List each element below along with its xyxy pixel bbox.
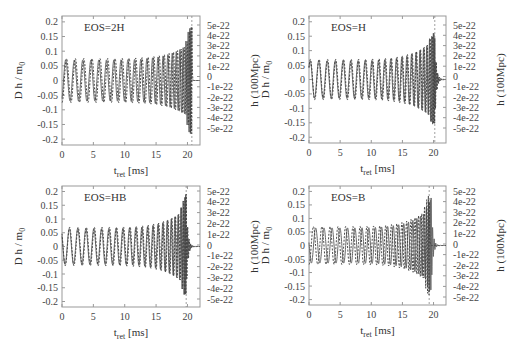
x-tick-label: 10 bbox=[120, 149, 130, 160]
y-tick-label: 0 bbox=[53, 241, 58, 252]
y2-tick-label: 4e-22 bbox=[453, 196, 476, 207]
y-tick-label: -0.1 bbox=[42, 104, 58, 115]
y-tick-label: 0.05 bbox=[288, 226, 306, 237]
y2-tick-label: 2e-22 bbox=[453, 217, 476, 228]
y-tick-label: 0.1 bbox=[293, 45, 306, 56]
y-axis-label-sub: 0 bbox=[265, 227, 274, 231]
y-tick-label: -0.1 bbox=[289, 103, 305, 114]
y2-tick-label: -1e-22 bbox=[207, 250, 233, 261]
x-tick-label: 0 bbox=[307, 147, 312, 158]
y-axis-label-sub: 0 bbox=[18, 62, 27, 66]
y-tick-label: 0 bbox=[300, 74, 305, 85]
y-tick-label: -0.05 bbox=[37, 255, 58, 266]
y2-tick-label: -5e-22 bbox=[207, 294, 233, 305]
figure: 051015200.20.150.10.050-0.05-0.1-0.15-0.… bbox=[0, 0, 515, 351]
y-tick-label: -0.2 bbox=[42, 296, 58, 307]
x-tick-label: 15 bbox=[151, 149, 161, 160]
y-tick-label: 0.15 bbox=[288, 199, 306, 210]
y-axis-label-main: D h / m bbox=[259, 230, 271, 264]
y-tick-label: 0.2 bbox=[293, 16, 306, 27]
y2-tick-label: 3e-22 bbox=[207, 207, 230, 218]
x-tick-label: 20 bbox=[182, 149, 192, 160]
x-axis-label: tret [ms] bbox=[114, 326, 148, 341]
panel-top-left: 051015200.20.150.10.050-0.05-0.1-0.15-0.… bbox=[12, 16, 261, 179]
x-axis-label: tret [ms] bbox=[360, 162, 394, 177]
y2-tick-label: -3e-22 bbox=[453, 270, 479, 281]
y-tick-label: 0.15 bbox=[41, 200, 59, 211]
y-tick-label: -0.1 bbox=[42, 269, 58, 280]
y2-axis-label: h (100Mpc) bbox=[494, 219, 507, 272]
y-tick-label: 0.1 bbox=[293, 213, 306, 224]
eos-annotation: EOS=B bbox=[331, 191, 365, 203]
y-tick-label: -0.05 bbox=[284, 254, 305, 265]
y2-tick-label: 3e-22 bbox=[453, 207, 476, 218]
y-tick-label: 0.2 bbox=[293, 186, 306, 197]
y-tick-label: 0 bbox=[300, 240, 305, 251]
x-tick-label: 5 bbox=[338, 147, 343, 158]
y-tick-label: 0.2 bbox=[46, 186, 59, 197]
y-tick-label: -0.15 bbox=[284, 281, 305, 292]
x-axis-label-unit: [ms] bbox=[125, 164, 148, 176]
y-tick-label: -0.05 bbox=[37, 90, 58, 101]
y-tick-label: -0.2 bbox=[289, 132, 305, 143]
y2-tick-label: 5e-22 bbox=[453, 186, 476, 197]
x-axis-label-unit: [ms] bbox=[372, 324, 395, 336]
y2-tick-label: -3e-22 bbox=[207, 272, 233, 283]
y-tick-label: 0.2 bbox=[46, 16, 59, 27]
y2-tick-label: 1e-22 bbox=[207, 229, 230, 240]
y2-tick-label: -2e-22 bbox=[453, 260, 479, 271]
x-axis-label-unit: [ms] bbox=[372, 162, 395, 174]
x-tick-label: 15 bbox=[397, 147, 407, 158]
y-axis-label: D h / m0 bbox=[259, 61, 274, 98]
y2-tick-label: -5e-22 bbox=[207, 123, 233, 134]
x-tick-label: 5 bbox=[91, 311, 96, 322]
y-tick-label: 0.1 bbox=[46, 214, 59, 225]
y-tick-label: -0.2 bbox=[289, 294, 305, 305]
y-axis-label: D h / m0 bbox=[12, 62, 27, 99]
eos-annotation: EOS=HB bbox=[84, 191, 126, 203]
y-tick-label: -0.15 bbox=[37, 282, 58, 293]
x-tick-label: 20 bbox=[429, 309, 439, 320]
x-axis-label: tret [ms] bbox=[114, 164, 148, 179]
y2-tick-label: 2e-22 bbox=[207, 218, 230, 229]
y2-tick-label: 5e-22 bbox=[207, 186, 230, 197]
x-axis-label-unit: [ms] bbox=[125, 326, 148, 338]
y-tick-label: 0 bbox=[53, 75, 58, 86]
y-tick-label: 0.05 bbox=[288, 60, 306, 71]
x-tick-label: 10 bbox=[366, 147, 376, 158]
y2-tick-label: -4e-22 bbox=[207, 283, 233, 294]
y2-tick-label: -2e-22 bbox=[207, 261, 233, 272]
y-axis-label-main: D h / m bbox=[12, 65, 24, 99]
y-tick-label: -0.1 bbox=[289, 267, 305, 278]
y2-tick-label: -5e-22 bbox=[453, 292, 479, 303]
x-tick-label: 20 bbox=[182, 311, 192, 322]
y-axis-label-sub: 0 bbox=[18, 228, 27, 232]
x-tick-label: 5 bbox=[91, 149, 96, 160]
x-tick-label: 5 bbox=[338, 309, 343, 320]
eos-annotation: EOS=H bbox=[331, 21, 366, 33]
x-tick-label: 15 bbox=[151, 311, 161, 322]
y-tick-label: 0.05 bbox=[41, 60, 59, 71]
y-tick-label: -0.15 bbox=[37, 119, 58, 130]
x-tick-label: 0 bbox=[307, 309, 312, 320]
y-axis-label: D h / m0 bbox=[12, 228, 27, 265]
y-tick-label: 0.05 bbox=[41, 227, 59, 238]
x-tick-label: 10 bbox=[120, 311, 130, 322]
y-tick-label: 0.15 bbox=[288, 31, 306, 42]
eos-annotation: EOS=2H bbox=[84, 21, 124, 33]
y-tick-label: -0.15 bbox=[284, 117, 305, 128]
y-axis-label: D h / m0 bbox=[259, 227, 274, 264]
x-tick-label: 0 bbox=[60, 311, 65, 322]
y2-axis-label: h (100Mpc) bbox=[494, 53, 507, 106]
y-axis-label-sub: 0 bbox=[265, 61, 274, 65]
y-tick-label: 0.15 bbox=[41, 31, 59, 42]
x-tick-label: 20 bbox=[429, 147, 439, 158]
panel-bottom-right: 051015200.20.150.10.050-0.05-0.1-0.15-0.… bbox=[259, 186, 507, 340]
y2-tick-label: 0 bbox=[453, 239, 458, 250]
y-tick-label: -0.05 bbox=[284, 88, 305, 99]
y2-tick-label: 1e-22 bbox=[453, 228, 476, 239]
y-tick-label: 0.1 bbox=[46, 46, 59, 57]
x-tick-label: 0 bbox=[60, 149, 65, 160]
y-axis-label-main: D h / m bbox=[259, 64, 271, 98]
y2-tick-label: -1e-22 bbox=[453, 249, 479, 260]
